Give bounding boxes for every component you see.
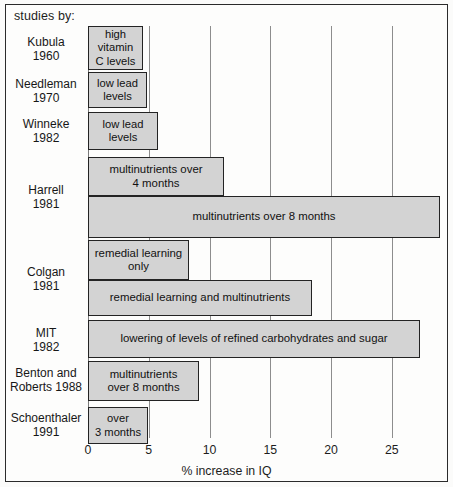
x-tick-label-15: 15 [263,443,277,457]
bar-needleman: low lead levels [88,72,147,108]
bar-mit: lowering of levels of refined carbohydra… [88,320,420,358]
bar-harrell-4mo: multinutrients over 4 months [88,157,224,196]
cat-label-schoenthaler: Schoenthaler 1991 [8,411,84,439]
cat-label-benton: Benton and Roberts 1988 [8,366,84,394]
plot-area: high vitamin C levelslow lead levelslow … [88,26,393,438]
bar-harrell-8mo: multinutrients over 8 months [88,196,440,238]
iq-study-bar-chart-figure: studies by: high vitamin C levelslow lea… [0,0,453,487]
x-tick-label-10: 10 [203,443,217,457]
cat-label-winneke: Winneke 1982 [8,117,84,145]
cat-label-mit: MIT 1982 [8,326,84,354]
cat-label-harrell: Harrell 1981 [8,183,84,211]
x-axis-title: % increase in IQ [0,464,453,478]
bar-kubula: high vitamin C levels [88,26,143,70]
bar-schoenthaler: over 3 months [88,407,148,444]
bar-colgan-remedial: remedial learning only [88,240,189,280]
studies-by-header: studies by: [14,9,75,23]
x-tick-label-0: 0 [85,443,92,457]
x-tick-label-5: 5 [145,443,152,457]
cat-label-needleman: Needleman 1970 [8,77,84,105]
x-tick-label-25: 25 [385,443,399,457]
x-tick-label-20: 20 [324,443,338,457]
bar-winneke: low lead levels [88,112,158,150]
cat-label-colgan: Colgan 1981 [8,265,84,293]
bar-colgan-combo: remedial learning and multinutrients [88,280,312,316]
cat-label-kubula: Kubula 1960 [8,35,84,63]
bar-benton: multinutrients over 8 months [88,361,199,401]
